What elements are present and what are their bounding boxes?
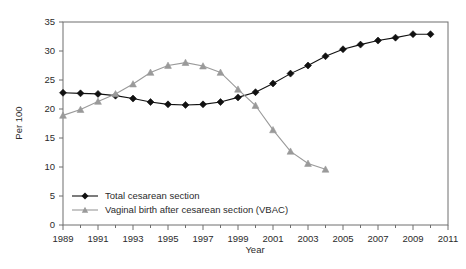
y-tick-label: 25 [44,74,55,85]
x-tick-label: 2007 [367,233,388,244]
y-axis-title: Per 100 [13,106,24,139]
legend-item: Vaginal birth after cesarean section (VB… [72,204,288,215]
x-tick-label: 1997 [192,233,213,244]
y-tick-label: 0 [50,219,55,230]
x-tick-label: 2011 [438,233,458,244]
x-tick-label: 2005 [332,233,353,244]
chart-container: 05101520253035 1989199119931995199719992… [0,0,466,269]
x-tick-label: 1999 [227,233,248,244]
y-tick-label: 20 [44,103,55,114]
y-tick-label: 30 [44,45,55,56]
y-tick-label: 5 [50,190,55,201]
legend-label: Vaginal birth after cesarean section (VB… [105,204,288,215]
x-tick-label: 2003 [297,233,318,244]
legend-label: Total cesarean section [105,190,200,201]
x-axis-title: Year [245,244,264,255]
y-tick-label: 10 [44,161,55,172]
x-tick-label: 2009 [402,233,423,244]
y-tick-label: 15 [44,132,55,143]
x-tick-label: 1991 [87,233,108,244]
line-chart: 05101520253035 1989199119931995199719992… [0,0,466,269]
x-tick-label: 1993 [122,233,143,244]
y-tick-label: 35 [44,16,55,27]
x-tick-label: 1989 [52,233,73,244]
x-tick-label: 1995 [157,233,178,244]
x-tick-label: 2001 [262,233,283,244]
